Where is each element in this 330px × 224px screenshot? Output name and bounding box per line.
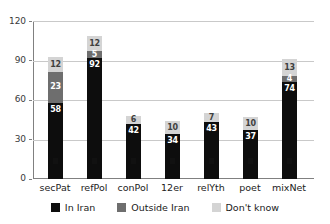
x-tick-mark-secPat [53, 158, 58, 164]
y-tick-mark-90 [29, 60, 32, 61]
legend-item-outside-iran[interactable]: Outside Iran [117, 202, 189, 213]
bar-conPol[interactable]: 6 42 [126, 116, 141, 179]
x-axis-label-mixNet: mixNet [261, 182, 317, 193]
legend-item-dont-know[interactable]: Don't know [212, 202, 280, 213]
bar-conPol-segment-dont-know: 6 [126, 116, 141, 124]
y-axis-label-120: 120 [0, 16, 26, 26]
y-axis-label-30: 30 [0, 134, 26, 144]
x-tick-mark-conPol [131, 158, 136, 164]
legend-label-dont-know: Don't know [226, 202, 280, 213]
bar-secPat-label-dont-know: 12 [48, 60, 63, 69]
bar-relYth-segment-dont-know: 7 [204, 113, 219, 122]
bar-12er-label-in-iran: 34 [165, 136, 180, 145]
bar-relYth-label-dont-know: 7 [204, 113, 219, 122]
legend-swatch-outside-iran [117, 203, 126, 212]
x-tick-mark-relYth [209, 158, 214, 164]
x-tick-mark-refPol [92, 158, 97, 164]
plot-area: 12 23 58 12 5 92 [33, 21, 314, 179]
bar-refPol-label-dont-know: 12 [87, 39, 102, 48]
legend-swatch-dont-know [212, 203, 221, 212]
bar-12er-segment-in-iran: 34 [165, 134, 180, 179]
bar-refPol-segment-dont-know: 12 [87, 36, 102, 52]
bar-refPol-segment-outside-iran: 5 [87, 51, 102, 58]
legend-label-in-iran: In Iran [65, 202, 95, 213]
chart-legend: In Iran Outside Iran Don't know [0, 202, 330, 213]
bar-refPol-label-in-iran: 92 [87, 60, 102, 69]
legend-label-outside-iran: Outside Iran [131, 202, 189, 213]
bar-12er-segment-dont-know: 10 [165, 121, 180, 134]
y-tick-mark-60 [29, 100, 32, 101]
bar-conPol-label-dont-know: 6 [126, 115, 141, 124]
x-tick-mark-12er [170, 158, 175, 164]
y-axis-label-90: 90 [0, 55, 26, 65]
bar-relYth[interactable]: 7 43 [204, 113, 219, 179]
y-tick-mark-30 [29, 139, 32, 140]
bar-secPat-segment-outside-iran: 23 [48, 72, 63, 102]
bar-12er-label-dont-know: 10 [165, 123, 180, 132]
y-axis-label-60: 60 [0, 94, 26, 104]
bar-poet-segment-in-iran: 37 [243, 130, 258, 179]
stacked-bar-chart: 120 90 60 30 0 12 23 58 [0, 0, 330, 224]
bar-poet[interactable]: 10 37 [243, 117, 258, 179]
legend-swatch-in-iran [51, 203, 60, 212]
bar-conPol-label-in-iran: 42 [126, 126, 141, 135]
bar-secPat-label-outside-iran: 23 [48, 82, 63, 91]
y-tick-mark-0 [29, 179, 32, 180]
bar-12er[interactable]: 10 34 [165, 121, 180, 179]
x-tick-mark-poet [248, 158, 253, 164]
bar-secPat-label-in-iran: 58 [48, 105, 63, 114]
bar-relYth-label-in-iran: 43 [204, 124, 219, 133]
bar-group: 12 23 58 12 5 92 [33, 21, 314, 179]
bar-mixNet-segment-in-iran: 74 [282, 82, 297, 179]
x-tick-mark-mixNet [287, 158, 292, 164]
bar-conPol-segment-in-iran: 42 [126, 124, 141, 179]
bar-poet-label-in-iran: 37 [243, 132, 258, 141]
bar-secPat-segment-dont-know: 12 [48, 57, 63, 73]
bar-mixNet-label-in-iran: 74 [282, 84, 297, 93]
bar-secPat-segment-in-iran: 58 [48, 103, 63, 179]
y-axis-label-0: 0 [0, 173, 26, 183]
legend-item-in-iran[interactable]: In Iran [51, 202, 95, 213]
bar-poet-label-dont-know: 10 [243, 119, 258, 128]
bar-poet-segment-dont-know: 10 [243, 117, 258, 130]
bar-relYth-segment-in-iran: 43 [204, 122, 219, 179]
y-tick-mark-120 [29, 21, 32, 22]
bar-mixNet-label-dont-know: 13 [282, 63, 297, 72]
